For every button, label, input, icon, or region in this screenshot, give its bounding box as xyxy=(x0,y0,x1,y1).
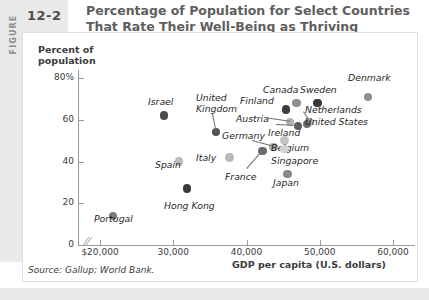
x-tick-label: 30,000 xyxy=(143,247,203,257)
point-label-united-states: United States xyxy=(305,116,368,127)
point-label-france: France xyxy=(225,171,257,182)
y-tick-label: 40 xyxy=(40,156,74,166)
point-label-hong-kong: Hong Kong xyxy=(164,200,215,211)
x-tick-label: 40,000 xyxy=(217,247,277,257)
data-point-israel xyxy=(160,111,168,119)
figure-number: 12-2 xyxy=(27,8,62,23)
y-tick-mark xyxy=(79,120,84,121)
y-tick-mark xyxy=(79,78,84,79)
footer-strip xyxy=(0,288,429,300)
x-tick-mark xyxy=(100,240,101,245)
data-point-canada xyxy=(292,99,300,107)
point-label-denmark: Denmark xyxy=(348,72,391,83)
point-label-singapore: Singapore xyxy=(271,155,318,166)
x-tick-label: $20,000 xyxy=(70,247,130,257)
y-tick-mark xyxy=(79,203,84,204)
y-axis-title-line-1: Percent of xyxy=(38,44,96,55)
y-tick-label: 20 xyxy=(40,197,74,207)
point-label-israel: Israel xyxy=(148,96,173,107)
point-label-italy: Italy xyxy=(196,152,216,163)
point-label-canada: Canada xyxy=(263,84,298,95)
y-tick-mark xyxy=(79,162,84,163)
point-label-japan: Japan xyxy=(273,177,299,188)
data-point-italy xyxy=(225,153,233,161)
x-tick-mark xyxy=(247,240,248,245)
y-axis-line xyxy=(78,70,79,245)
x-axis-line xyxy=(78,245,415,246)
data-point-finland xyxy=(282,105,290,113)
y-tick-label: 0 xyxy=(40,239,74,249)
data-point-singapore xyxy=(280,145,288,153)
y-tick-label: 60 xyxy=(40,114,74,124)
figure-tag-label: FIGURE xyxy=(9,5,18,65)
data-point-sweden xyxy=(313,99,321,107)
source-note: Source: Gallup; World Bank. xyxy=(28,265,154,275)
figure-container: FIGURE 12-2 Percentage of Population for… xyxy=(0,0,429,300)
point-label-united-kingdom: UnitedKingdom xyxy=(196,92,237,114)
x-axis-title: GDP per capita (U.S. dollars) xyxy=(232,259,386,270)
point-label-belgium: Belgium xyxy=(271,142,309,153)
title-line-1: Percentage of Population for Select Coun… xyxy=(86,3,416,19)
x-tick-label: 50,000 xyxy=(290,247,350,257)
x-tick-mark xyxy=(173,240,174,245)
point-label-spain: Spain xyxy=(155,159,181,170)
y-axis-title-line-2: population xyxy=(38,55,96,66)
point-label-finland: Finland xyxy=(240,95,274,106)
point-label-sweden: Sweden xyxy=(300,84,337,95)
point-label-germany: Germany xyxy=(222,130,265,141)
x-tick-mark xyxy=(393,240,394,245)
point-label-austria: Austria xyxy=(236,113,269,124)
y-tick-label: 80% xyxy=(40,72,74,82)
point-label-portugal: Portugal xyxy=(94,213,133,224)
x-tick-label: 60,000 xyxy=(363,247,423,257)
page-title: Percentage of Population for Select Coun… xyxy=(86,3,416,35)
x-tick-mark xyxy=(320,240,321,245)
y-axis-title: Percent of population xyxy=(38,44,96,66)
